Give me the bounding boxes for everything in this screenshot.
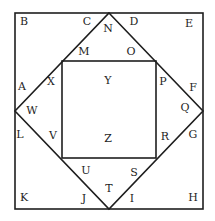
label-h: H	[188, 192, 198, 203]
label-e: E	[185, 18, 193, 29]
label-f: F	[189, 82, 197, 93]
label-x: X	[47, 76, 55, 87]
label-m: M	[78, 46, 89, 57]
label-p: P	[159, 76, 166, 87]
label-c: C	[83, 16, 91, 27]
label-o: O	[126, 46, 135, 57]
inscribed-diamond	[15, 13, 203, 209]
label-r: R	[161, 131, 169, 142]
label-v: V	[49, 130, 57, 141]
label-z: Z	[104, 133, 112, 144]
label-l: L	[16, 129, 23, 140]
label-t: T	[105, 183, 112, 194]
label-q: Q	[180, 102, 189, 113]
label-w: W	[26, 105, 37, 116]
label-g: G	[189, 129, 198, 140]
label-k: K	[20, 192, 28, 203]
label-n: N	[103, 23, 113, 34]
label-s: S	[130, 167, 138, 178]
label-i: I	[130, 193, 134, 204]
label-d: D	[130, 16, 139, 27]
outer-square	[15, 13, 203, 209]
label-y: Y	[104, 75, 111, 86]
label-j: J	[82, 193, 86, 204]
label-a: A	[18, 81, 26, 92]
label-u: U	[81, 165, 90, 176]
label-b: B	[20, 16, 28, 27]
